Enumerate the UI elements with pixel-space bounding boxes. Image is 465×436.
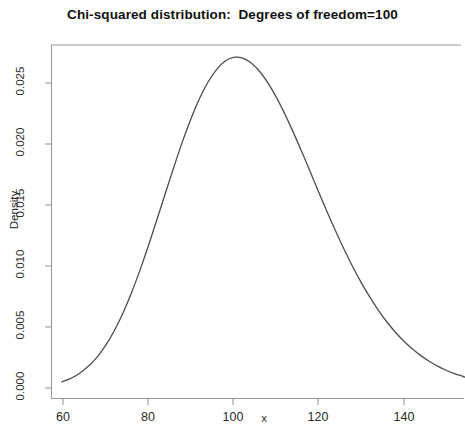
chart-canvas [0, 0, 465, 436]
x-axis-ticks [63, 399, 404, 406]
y-tick-label: 0.005 [14, 302, 26, 348]
y-tick-label: 0.020 [14, 119, 26, 165]
x-tick-label: 80 [118, 410, 178, 424]
x-tick-label: 140 [374, 410, 434, 424]
y-axis-ticks [45, 83, 52, 388]
chart-figure: Chi-squared distribution: Degrees of fre… [0, 0, 465, 436]
y-tick-label: 0.025 [14, 58, 26, 104]
y-tick-label: 0.000 [14, 363, 26, 409]
x-tick-label: 120 [288, 410, 348, 424]
density-curve [62, 57, 464, 382]
x-tick-label: 60 [33, 410, 93, 424]
y-axis-title: Density [8, 170, 20, 250]
x-axis-title: x [244, 412, 284, 424]
